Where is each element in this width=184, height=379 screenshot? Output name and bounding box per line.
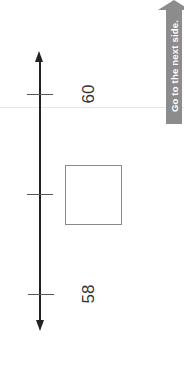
tick-middle <box>27 194 53 195</box>
next-side-label: Go to the next side. <box>169 20 180 112</box>
tick-label-58: 58 <box>79 279 99 309</box>
tick-top <box>27 94 53 95</box>
tick-bottom <box>28 294 54 295</box>
tick-label-60: 60 <box>79 79 99 109</box>
number-line-axis <box>39 56 41 320</box>
arrow-down-icon <box>36 320 44 331</box>
answer-box[interactable] <box>65 165 122 225</box>
